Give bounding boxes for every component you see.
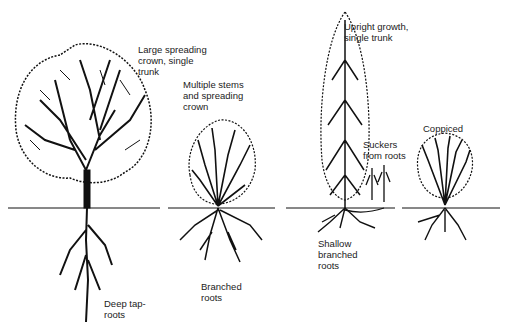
label-branched-roots: Branched roots [201,281,242,303]
upright-tree [318,12,390,232]
large-spreading-tree [15,44,151,322]
label-coppiced: Coppiced [423,123,463,134]
label-multiple-stems: Multiple stems and spreading crown [183,79,244,112]
label-large-spreading-crown: Large spreading crown, single trunk [138,44,207,77]
multiple-stems-tree [180,120,262,262]
label-shallow-branched-roots: Shallow branched roots [318,238,358,271]
label-upright-growth: Upright growth, single trunk [344,21,408,43]
tree-forms-diagram: Large spreading crown, single trunk Deep… [0,0,507,333]
label-deep-taproots: Deep tap- roots [104,298,146,320]
diagram-artwork [0,0,507,333]
coppiced-tree [417,133,472,240]
label-suckers: Suckers from roots [363,139,406,161]
